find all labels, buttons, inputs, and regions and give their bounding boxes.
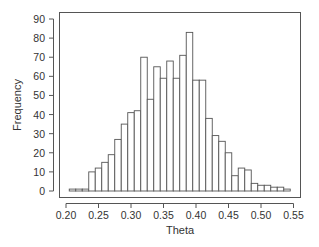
y-tick-label: 90 [33,13,45,25]
histogram-bar [212,136,219,191]
x-axis-label: Theta [166,224,195,236]
histogram-bar [251,183,258,191]
x-tick-label: 0.55 [283,209,304,221]
y-tick-label: 70 [33,51,45,63]
histogram-bar [108,155,115,191]
y-axis-label: Frequency [11,79,23,131]
histogram-bar [160,78,167,191]
histogram-bar [245,170,252,191]
x-tick-label: 0.30 [121,209,142,221]
histogram-bar [89,172,96,191]
histogram-bar [128,113,135,191]
y-tick-label: 50 [33,89,45,101]
histogram-bar [121,124,128,191]
x-tick-label: 0.45 [218,209,239,221]
x-tick-label: 0.20 [56,209,77,221]
y-tick-label: 80 [33,32,45,44]
histogram-bar [147,99,154,191]
histogram-bar [154,67,161,191]
histogram-bar [219,141,226,191]
histogram-chart: 0102030405060708090 0.200.250.300.350.40… [0,0,319,247]
y-tick-label: 40 [33,109,45,121]
histogram-bar [186,32,193,191]
histogram-bar [82,189,89,191]
histogram-bar [167,61,174,191]
x-axis: 0.200.250.300.350.400.450.500.55 [56,204,304,222]
histogram-bar [95,168,102,191]
x-tick-label: 0.50 [251,209,272,221]
x-tick-label: 0.25 [88,209,109,221]
x-tick-label: 0.40 [186,209,207,221]
y-tick-label: 30 [33,128,45,140]
y-tick-label: 60 [33,70,45,82]
histogram-bar [264,185,271,191]
histogram-bar [225,153,232,191]
histogram-bar [173,78,180,191]
histogram-bar [115,139,122,191]
histogram-bar [206,118,213,191]
histogram-bar [76,189,83,191]
histogram-bar [102,162,109,191]
histogram-bar [284,189,291,191]
histogram-bar [232,176,239,191]
histogram-bar [199,80,206,191]
y-tick-label: 0 [39,185,45,197]
histogram-bar [271,187,278,191]
histogram-bar [238,168,245,191]
histogram-bar [180,55,187,191]
y-axis: 0102030405060708090 [33,13,53,197]
y-tick-label: 10 [33,166,45,178]
histogram-bar [258,185,265,191]
histogram-bars [69,32,290,191]
histogram-bar [134,111,141,191]
histogram-bar [193,80,200,191]
histogram-bar [141,57,148,191]
histogram-bar [277,187,284,191]
y-tick-label: 20 [33,147,45,159]
x-tick-label: 0.35 [153,209,174,221]
histogram-bar [69,189,76,191]
